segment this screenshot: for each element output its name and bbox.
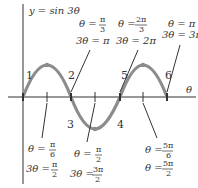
svg-text:θ =: θ = [74,148,92,159]
annotation-pi: θ = π 3θ = 3π [162,18,198,40]
segment-1: 1 [26,69,33,82]
svg-text:θ =: θ = [145,144,163,155]
svg-text:3θ =: 3θ = [26,163,50,174]
svg-text:3θ =: 3θ = [70,168,94,179]
svg-text:2: 2 [96,155,101,164]
annotation-pi-over-2: θ = π 2 3θ = 3π 2 [70,145,103,184]
svg-text:2: 2 [166,169,171,178]
peak-point-1 [45,63,49,67]
annotation-pi-over-3: θ = π 3 3θ = π [76,15,110,46]
svg-text:2: 2 [95,175,100,184]
sine-graph: y = sin 3θ θ 1 2 3 4 5 6 θ = π 3 3θ = π … [0,0,198,188]
peak-point-2 [141,63,145,67]
graph-title: y = sin 3θ [28,5,80,16]
leader-lines [42,45,180,142]
svg-text:θ = π: θ = π [168,18,196,29]
svg-text:θ =: θ = [118,18,136,29]
annotation-2pi-over-3: θ = 2π 3 3θ = 2π [116,15,156,46]
segment-4: 4 [117,118,124,131]
svg-text:2: 2 [52,170,57,179]
theta-axis-label: θ [186,84,192,95]
svg-text:5π: 5π [163,159,173,168]
svg-text:5π: 5π [163,141,173,150]
svg-text:π: π [50,140,55,149]
svg-text:3π: 3π [93,165,103,174]
svg-text:θ =: θ = [145,162,163,173]
svg-text:π: π [96,145,101,154]
svg-text:3: 3 [100,25,105,34]
svg-text:π: π [100,15,105,24]
annotation-pi-over-6: θ = π 6 3θ = π 2 [26,140,58,179]
segment-5: 5 [121,69,128,82]
svg-text:3θ = 3π: 3θ = 3π [162,29,198,40]
svg-text:π: π [52,160,57,169]
svg-text:3θ = π: 3θ = π [76,35,110,46]
svg-text:θ =: θ = [79,18,97,29]
trough-point [93,127,97,131]
svg-text:θ =: θ = [28,143,46,154]
svg-text:2π: 2π [136,15,146,24]
svg-text:6: 6 [50,150,55,159]
segment-2: 2 [68,69,75,82]
segment-3: 3 [67,118,74,131]
annotation-5pi-over-6: θ = 5π 6 θ = 5π 2 [145,141,173,178]
svg-text:3θ = 2π: 3θ = 2π [116,35,156,46]
svg-text:3: 3 [139,25,144,34]
segment-6: 6 [165,69,172,82]
